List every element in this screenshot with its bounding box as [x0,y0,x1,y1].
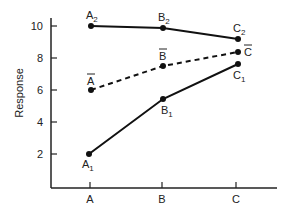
svg-text:C: C [244,46,252,58]
x-tick-C: C [232,193,240,205]
y-tick-4: 4 [37,116,43,128]
y-tick-8: 8 [37,52,43,64]
label-B1: B1 [161,104,173,119]
point-Abar [88,87,94,93]
label-C2: C2 [233,22,246,37]
label-Bbar: B [159,49,167,62]
y-axis-title: Response [13,68,25,118]
label-C1: C1 [233,69,246,84]
point-B1 [160,96,166,102]
x-ticks [90,182,236,188]
data-points [86,23,241,157]
chart-canvas: 10 8 6 4 2 A B C Response [0,0,292,217]
y-tick-2: 2 [37,148,43,160]
interaction-plot: 10 8 6 4 2 A B C Response [0,0,292,217]
label-A2: A2 [86,9,98,24]
label-Abar: A [87,74,95,87]
point-C1 [235,61,241,67]
y-tick-6: 6 [37,84,43,96]
point-Bbar [160,63,166,69]
point-A1 [86,151,92,157]
label-Cbar: C [244,45,252,58]
label-A1: A1 [82,158,94,173]
x-tick-A: A [86,193,94,205]
svg-text:B: B [159,50,166,62]
label-B2: B2 [158,11,170,26]
y-tick-10: 10 [31,20,43,32]
x-tick-B: B [158,193,165,205]
y-ticks [51,26,57,154]
x-tick-labels: A B C [86,193,240,205]
svg-text:A: A [87,75,95,87]
y-tick-labels: 10 8 6 4 2 [31,20,43,160]
point-Cbar [235,49,241,55]
